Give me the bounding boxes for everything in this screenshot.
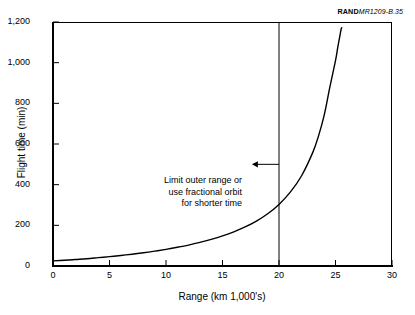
flight-time-curve — [53, 28, 342, 261]
x-axis-title: Range (km 1,000's) — [52, 291, 392, 302]
annotation-arrow — [252, 161, 279, 167]
annotation-line-1: Limit outer range or — [90, 175, 242, 187]
y-tick-label: 1,200 — [7, 17, 30, 26]
x-tick-label: 25 — [330, 270, 340, 280]
x-axis-tick-labels: 051015202530 — [0, 270, 415, 284]
x-tick-label: 5 — [107, 270, 112, 280]
y-axis-ticks — [53, 22, 59, 266]
chart-figure: RANDMR1209-B.35 02004006008001,0001,200 … — [0, 0, 415, 315]
x-tick-label: 30 — [387, 270, 397, 280]
annotation-text: Limit outer range or use fractional orbi… — [90, 175, 242, 210]
x-tick-label: 15 — [217, 270, 227, 280]
y-tick-label: 200 — [15, 220, 30, 229]
plot-canvas — [0, 0, 415, 315]
annotation-line-2: use fractional orbit — [90, 187, 242, 199]
x-tick-label: 20 — [274, 270, 284, 280]
x-tick-label: 10 — [161, 270, 171, 280]
y-tick-label: 0 — [25, 261, 30, 270]
x-tick-label: 0 — [50, 270, 55, 280]
annotation-line-3: for shorter time — [90, 198, 242, 210]
y-axis-title: Flight time (min) — [16, 78, 27, 208]
x-axis-ticks — [53, 260, 392, 266]
y-tick-label: 1,000 — [7, 58, 30, 67]
